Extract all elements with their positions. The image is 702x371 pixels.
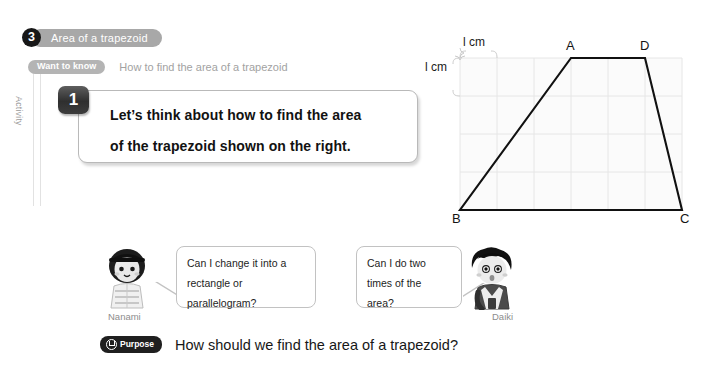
daiki-bubble-tail [462, 281, 484, 296]
task-instruction-text: Let’s think about how to find the area o… [110, 100, 415, 162]
figure-grid [460, 58, 682, 210]
task-number-badge: 1 [58, 86, 89, 114]
trapezoid-figure: l cm l cm A D B C [424, 24, 702, 224]
daiki-name-label: Daiki [492, 311, 513, 322]
want-to-know-row: Want to know How to find the area of a t… [28, 58, 288, 75]
purpose-row: Purpose How should we find the area of a… [100, 336, 458, 353]
section-title: Area of a trapezoid [31, 29, 162, 47]
daiki-bubble-line-2: times of the [367, 273, 451, 293]
activity-label: Activity [14, 76, 24, 146]
unit-label-vertical: l cm [425, 60, 447, 74]
purpose-badge: Purpose [100, 336, 162, 353]
want-to-know-badge: Want to know [28, 60, 105, 74]
nanami-name-label: Nanami [108, 311, 141, 322]
nanami-bubble-line-3: parallelogram? [187, 293, 305, 313]
vertex-label-d: D [640, 38, 649, 53]
task-instruction-line-1: Let’s think about how to find the area [110, 100, 415, 131]
purpose-badge-label: Purpose [120, 340, 154, 349]
section-number-badge: 3 [22, 28, 41, 47]
nanami-bubble-line-1: Can I change it into a [187, 253, 305, 273]
activity-rail: Activity [0, 62, 46, 212]
nanami-speech-bubble: Can I change it into a rectangle or para… [176, 246, 316, 308]
daiki-bubble-line-3: area? [367, 293, 451, 313]
daiki-bubble-line-1: Can I do two [367, 253, 451, 273]
vertex-label-a: A [566, 38, 575, 53]
vertex-label-b: B [452, 211, 461, 224]
rail-line-outer [40, 66, 41, 206]
nanami-bubble-line-2: rectangle or [187, 273, 305, 293]
purpose-question-text: How should we find the area of a trapezo… [175, 337, 458, 353]
unit-label-horizontal: l cm [463, 35, 485, 49]
vertex-label-c: C [680, 211, 689, 224]
daiki-avatar [468, 246, 516, 310]
section-header: 3 Area of a trapezoid [22, 28, 162, 47]
task-instruction-line-2: of the trapezoid shown on the right. [110, 131, 415, 162]
nanami-avatar [104, 246, 150, 310]
nanami-bubble-tail [156, 280, 177, 294]
want-to-know-text: How to find the area of a trapezoid [119, 61, 287, 73]
target-icon [106, 339, 117, 350]
rail-line-inner [33, 66, 34, 206]
daiki-speech-bubble: Can I do two times of the area? [356, 246, 462, 308]
